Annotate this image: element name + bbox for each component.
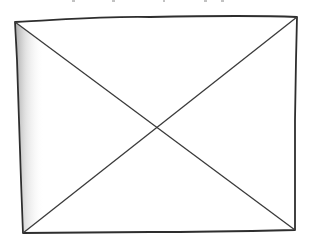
left-edge-shading (16, 23, 44, 232)
image-placeholder (0, 0, 309, 249)
diagonal-line-tl-br (15, 22, 295, 230)
